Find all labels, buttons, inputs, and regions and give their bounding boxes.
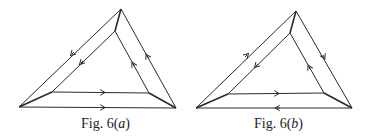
inner-left-edge	[228, 33, 290, 94]
caption-suffix: )	[298, 116, 303, 131]
caption-fig-6b: Fig. 6(b)	[254, 116, 303, 132]
caption-prefix: Fig. 6(	[81, 116, 118, 131]
connector-left	[196, 94, 228, 108]
caption-prefix: Fig. 6(	[254, 116, 291, 131]
inner-right-edge	[115, 31, 149, 93]
figure-6a-diagram	[19, 9, 176, 108]
figure-6b-diagram	[196, 11, 352, 108]
arrow-icon-outer-left	[245, 55, 247, 57]
arrow-icon-outer-left	[72, 52, 74, 54]
figure-canvas	[0, 0, 370, 139]
arrow-icon-outer-right	[147, 56, 148, 58]
inner-right-edge	[290, 33, 324, 93]
connector-left	[19, 92, 52, 107]
arrow-icon-inner-right	[133, 64, 134, 66]
arrow-icon-outer-right	[323, 55, 324, 57]
caption-suffix: )	[125, 116, 130, 131]
caption-fig-6a: Fig. 6(a)	[81, 116, 130, 132]
inner-left-edge	[52, 31, 115, 92]
arrow-icon-inner-left	[256, 64, 258, 66]
outer-bottom-edge	[19, 107, 176, 108]
